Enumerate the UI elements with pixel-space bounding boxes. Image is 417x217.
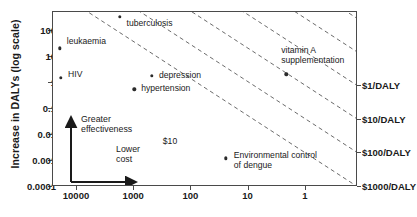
cost-label-tickmark: [357, 152, 361, 153]
x-axis-tick-1000: 1000: [123, 190, 144, 201]
cost-label-100: $100/DALY: [362, 147, 411, 158]
iso-cost-line: [53, 12, 357, 120]
chart-figure: Increase in DALYs (log scale) 1001010.10…: [0, 0, 417, 217]
data-point-label: hypertension: [141, 84, 190, 94]
cost-label-1: $1/DALY: [362, 80, 400, 91]
x-axis-tick-100: 100: [182, 190, 198, 201]
data-point-label: leukaemia: [67, 37, 106, 47]
data-point-label: vitamin A supplementation: [281, 47, 344, 66]
annotation-greater-effectiveness: Greater effectiveness: [81, 115, 132, 135]
data-point-label: HIV: [68, 70, 82, 80]
data-point-label: Environmental control of dengue: [234, 152, 317, 171]
annotation-lower-cost: Lower cost: [116, 145, 140, 165]
cost-label-10: $10/DALY: [362, 113, 405, 124]
x-axis-tick-10: 10: [242, 190, 253, 201]
cost-label-1000: $1000/DALY: [362, 181, 416, 192]
iso-cost-line-label: $10: [162, 136, 178, 146]
data-point-label: tuberculosis: [127, 19, 173, 29]
x-axis-tick-1: 1: [302, 190, 307, 201]
data-point-label: depression: [159, 71, 201, 81]
y-axis-title: Increase in DALYs (log scale): [9, 0, 21, 189]
plot-area: leukaemiaHIVtuberculosisdepressionhypert…: [52, 11, 357, 186]
iso-cost-line: [53, 12, 357, 19]
cost-label-tickmark: [357, 85, 361, 86]
cost-label-tickmark: [357, 119, 361, 120]
cost-label-tickmark: [357, 186, 361, 187]
x-axis-tick-10000: 10000: [63, 190, 89, 201]
